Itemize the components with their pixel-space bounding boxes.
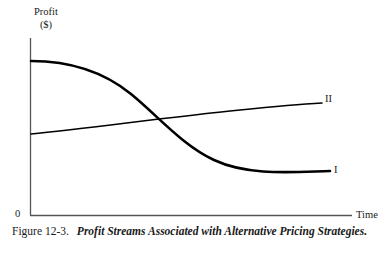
curve-label-one: I	[334, 164, 338, 175]
y-axis-title-line1: Profit	[18, 6, 74, 19]
origin-label: 0	[15, 208, 20, 220]
figure-caption-number: Figure 12-3.	[12, 225, 69, 237]
profit-streams-chart: Profit ($) Time 0 II I	[0, 0, 386, 222]
figure-caption: Figure 12-3.Profit Streams Associated wi…	[12, 224, 378, 238]
x-axis-title: Time	[356, 209, 378, 222]
curve-two-path	[31, 103, 322, 134]
chart-plot-area	[0, 0, 386, 222]
y-axis-title: Profit ($)	[18, 6, 74, 31]
y-axis-title-line2: ($)	[18, 19, 74, 32]
curve-label-two: II	[325, 93, 332, 104]
figure-caption-title: Profit Streams Associated with Alternati…	[77, 225, 367, 237]
figure-page: Profit ($) Time 0 II I Figure 12-3.Profi…	[0, 0, 386, 255]
